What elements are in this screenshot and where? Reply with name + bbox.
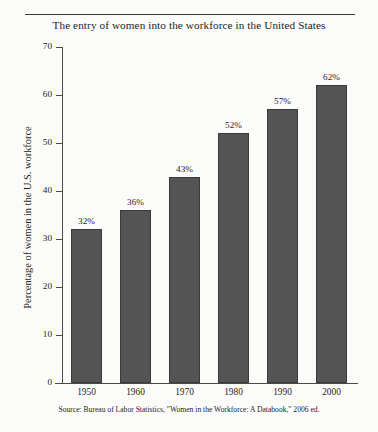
- bar-value-label: 32%: [63, 216, 111, 226]
- bar-value-label: 57%: [259, 96, 307, 106]
- y-axis-label: Percentage of women in the U.S. workforc…: [22, 93, 33, 343]
- bar: [218, 133, 249, 383]
- bar: [316, 85, 347, 383]
- source-note: Source: Bureau of Labor Statistics, "Wom…: [0, 405, 378, 414]
- bar-value-label: 36%: [112, 197, 160, 207]
- chart-figure: The entry of women into the workforce in…: [0, 0, 378, 432]
- bar-value-label: 62%: [308, 72, 356, 82]
- y-axis-tick-label: 50: [30, 137, 52, 147]
- y-axis-tick-label: 10: [30, 329, 52, 339]
- x-axis-line: [55, 383, 358, 384]
- bar-value-label: 43%: [161, 164, 209, 174]
- y-axis-tick-label: 20: [30, 281, 52, 291]
- plot-area: [62, 47, 356, 383]
- bar: [267, 109, 298, 383]
- bar: [71, 229, 102, 383]
- y-axis-tick-label: 30: [30, 233, 52, 243]
- x-axis-tick-label: 1980: [206, 387, 262, 397]
- chart-title: The entry of women into the workforce in…: [0, 19, 378, 31]
- y-axis-tick: [56, 383, 62, 384]
- x-axis-tick-label: 2000: [304, 387, 360, 397]
- x-axis-tick-label: 1970: [157, 387, 213, 397]
- y-axis-tick-label: 60: [30, 89, 52, 99]
- y-axis-tick-label: 70: [30, 41, 52, 51]
- bar: [169, 177, 200, 383]
- x-axis-tick-label: 1950: [59, 387, 115, 397]
- y-axis-tick-label: 40: [30, 185, 52, 195]
- y-axis-tick-label: 0: [30, 377, 52, 387]
- bar-value-label: 52%: [210, 120, 258, 130]
- bar: [120, 210, 151, 383]
- x-axis-tick-label: 1990: [255, 387, 311, 397]
- x-axis-tick-label: 1960: [108, 387, 164, 397]
- title-divider: [25, 14, 355, 15]
